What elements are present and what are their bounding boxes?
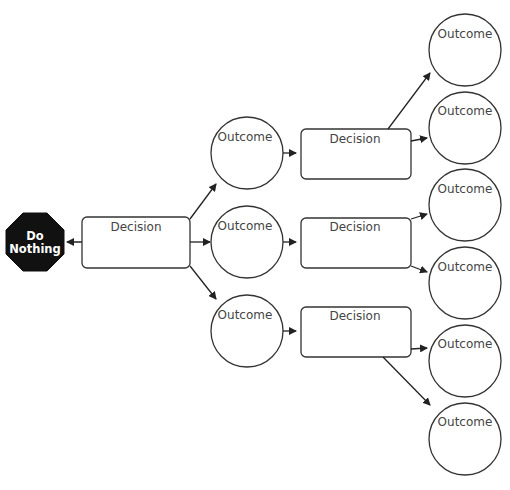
outcome-label: Outcome <box>438 182 493 196</box>
stop-label-line1: Do <box>26 229 44 243</box>
outcome-label: Outcome <box>438 260 493 274</box>
outcome-label: Outcome <box>218 308 273 322</box>
outcome-label: Outcome <box>218 219 273 233</box>
level3-outcome-2: Outcome <box>429 92 501 164</box>
decision-label: Decision <box>329 220 380 234</box>
outcome-label: Outcome <box>438 27 493 41</box>
outcome-label: Outcome <box>438 337 493 351</box>
stop-label-line2: Nothing <box>9 242 61 256</box>
level3-outcome-4: Outcome <box>429 247 501 319</box>
arrow-decision-2-to-outcome-4 <box>411 266 427 272</box>
arrow-decision-1-to-outcome-1 <box>388 73 430 129</box>
arrow-decision-1-to-outcome-2 <box>411 138 427 141</box>
arrow-decision-3-to-outcome-6 <box>383 357 430 405</box>
level1-outcome-3: Outcome <box>211 295 283 367</box>
level2-decision-3: Decision <box>301 307 411 357</box>
decision-tree-diagram: Do Nothing Decision Outcome Outcome Outc… <box>0 0 510 490</box>
decision-label: Decision <box>329 309 380 323</box>
outcome-label: Outcome <box>218 130 273 144</box>
level3-outcome-5: Outcome <box>429 325 501 397</box>
outcome-label: Outcome <box>438 415 493 429</box>
level3-outcome-1: Outcome <box>429 14 501 86</box>
level2-decision-1: Decision <box>301 129 411 179</box>
arrow-root-to-outcome-1 <box>190 184 216 219</box>
decision-label: Decision <box>329 132 380 146</box>
root-decision-node: Decision <box>82 217 190 268</box>
arrow-decision-3-to-outcome-5 <box>411 348 427 349</box>
level1-outcome-2: Outcome <box>211 206 283 278</box>
arrow-root-to-outcome-3 <box>190 266 216 299</box>
level1-outcome-1: Outcome <box>211 117 283 189</box>
level2-decision-2: Decision <box>301 218 411 268</box>
do-nothing-stop-sign: Do Nothing <box>6 213 64 271</box>
level3-outcome-6: Outcome <box>429 403 501 475</box>
level3-outcome-3: Outcome <box>429 169 501 241</box>
root-decision-label: Decision <box>110 220 161 234</box>
arrow-decision-2-to-outcome-3 <box>411 214 427 219</box>
outcome-label: Outcome <box>438 104 493 118</box>
